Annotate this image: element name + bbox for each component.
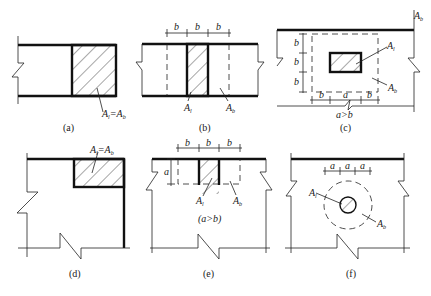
svg-text:a: a <box>164 166 169 177</box>
svg-text:b: b <box>367 89 372 100</box>
caption-c: (c) <box>340 122 351 134</box>
svg-text:b: b <box>294 56 299 67</box>
svg-text:b: b <box>319 89 324 100</box>
svg-text:Al: Al <box>386 40 395 52</box>
svg-text:Ab: Ab <box>376 218 386 230</box>
svg-text:b: b <box>294 76 299 87</box>
svg-text:Ab: Ab <box>225 102 235 114</box>
svg-text:Al=Ab: Al=Ab <box>101 108 126 120</box>
svg-text:a: a <box>330 160 335 171</box>
svg-text:b: b <box>294 37 299 48</box>
svg-text:b: b <box>206 137 211 148</box>
svg-text:a: a <box>345 160 350 171</box>
caption-f: (f) <box>346 268 356 280</box>
hatched-area-al <box>330 53 361 72</box>
hatched-area-al <box>72 45 116 96</box>
svg-text:a>b: a>b <box>336 109 353 120</box>
hatched-area-al <box>199 159 219 194</box>
svg-text:Ab: Ab <box>413 10 423 22</box>
svg-text:Ab: Ab <box>232 195 242 207</box>
panel-b: b b b Al Ab (b) <box>136 21 264 134</box>
svg-text:b: b <box>227 137 232 148</box>
local-compression-area-diagram: Al=Ab (a) b b b Al Ab (b) <box>0 0 431 296</box>
hatched-area-al <box>74 159 124 187</box>
hatched-area-al <box>187 44 208 96</box>
svg-text:b: b <box>174 21 179 32</box>
svg-text:Al: Al <box>308 187 317 199</box>
panel-f: a a a Al Ab (f) <box>285 153 410 280</box>
caption-e: (e) <box>203 268 214 280</box>
svg-text:a: a <box>343 89 348 100</box>
panel-d: Al=Ab (d) <box>17 144 130 280</box>
panel-c: b b b b a b a>b Al Ab Ab (c) <box>277 10 423 134</box>
svg-text:b: b <box>195 21 200 32</box>
panel-e: b b b a Al Ab (a>b) (e) <box>146 137 272 280</box>
caption-d: (d) <box>69 268 81 280</box>
svg-text:b: b <box>185 137 190 148</box>
svg-text:Al: Al <box>195 195 204 207</box>
caption-b: (b) <box>199 122 211 134</box>
svg-text:Al=Ab: Al=Ab <box>89 144 114 156</box>
svg-text:Ab: Ab <box>387 82 397 94</box>
svg-text:b: b <box>216 21 221 32</box>
svg-text:Al: Al <box>183 102 192 114</box>
panel-a: Al=Ab (a) <box>12 36 126 134</box>
svg-text:a: a <box>360 160 365 171</box>
hatched-area-al <box>340 197 356 213</box>
condition-label: (a>b) <box>198 213 222 225</box>
caption-a: (a) <box>63 122 74 134</box>
